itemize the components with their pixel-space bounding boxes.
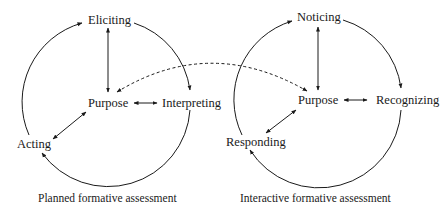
node-noticing: Noticing (297, 11, 341, 24)
arc-eliciting-to-interpreting (134, 23, 190, 90)
node-purpose-interactive: Purpose (298, 94, 338, 107)
node-eliciting: Eliciting (88, 14, 131, 27)
dashed-link-purposes (117, 63, 307, 92)
caption-planned: Planned formative assessment (38, 193, 177, 205)
caption-interactive: Interactive formative assessment (240, 193, 391, 205)
node-acting: Acting (17, 138, 51, 151)
arc-interpreting-to-acting (42, 110, 190, 187)
arc-noticing-to-recognizing (343, 20, 401, 88)
node-responding: Responding (226, 136, 286, 149)
node-purpose-planned: Purpose (88, 97, 128, 110)
node-interpreting: Interpreting (162, 97, 221, 110)
spoke-purpose-acting (53, 112, 86, 139)
arc-responding-to-noticing (234, 21, 292, 135)
diagram-canvas (0, 0, 447, 216)
node-recognizing: Recognizing (376, 94, 439, 107)
spoke-purpose-responding (266, 110, 296, 133)
arc-acting-to-eliciting (22, 23, 82, 135)
